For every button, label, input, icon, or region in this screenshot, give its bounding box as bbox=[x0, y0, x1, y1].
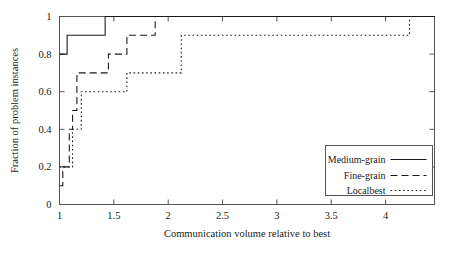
y-tick-label: 1 bbox=[46, 11, 51, 22]
performance-profile-chart: 11.522.533.5400.20.40.60.81Communication… bbox=[0, 0, 463, 257]
y-tick-label: 0.2 bbox=[38, 161, 51, 172]
y-tick-label: 0.8 bbox=[38, 49, 51, 60]
y-tick-label: 0 bbox=[46, 199, 51, 210]
y-axis-title: Fraction of problem instances bbox=[9, 48, 20, 173]
x-tick-label: 3.5 bbox=[325, 210, 338, 221]
x-tick-label: 4 bbox=[383, 210, 389, 221]
y-tick-label: 0.6 bbox=[38, 86, 51, 97]
x-axis-title: Communication volume relative to best bbox=[164, 228, 330, 239]
x-tick-label: 2.5 bbox=[216, 210, 229, 221]
y-tick-label: 0.4 bbox=[38, 124, 52, 135]
figure-container: 11.522.533.5400.20.40.60.81Communication… bbox=[0, 0, 463, 257]
legend-label: Localbest bbox=[347, 185, 386, 196]
legend-label: Fine-grain bbox=[344, 170, 386, 181]
legend-label: Medium-grain bbox=[328, 154, 386, 165]
x-tick-label: 1.5 bbox=[107, 210, 120, 221]
series-line-localbest bbox=[60, 17, 435, 167]
chart-canvas: 11.522.533.5400.20.40.60.81Communication… bbox=[0, 0, 463, 257]
x-tick-label: 2 bbox=[166, 210, 171, 221]
x-tick-label: 3 bbox=[274, 210, 279, 221]
x-tick-label: 1 bbox=[57, 210, 62, 221]
